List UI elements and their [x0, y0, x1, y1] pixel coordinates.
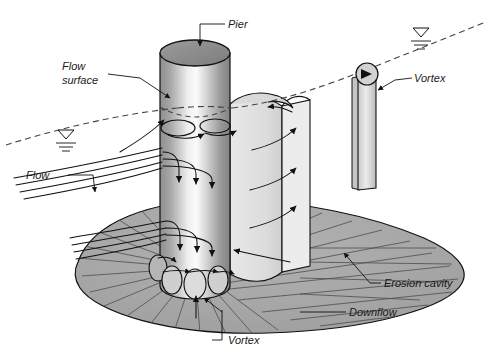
approach-streamlines-upper [14, 120, 164, 199]
water-level-symbol-right [411, 28, 431, 49]
pier-top-face [160, 40, 230, 66]
water-level-symbol-left [56, 130, 76, 151]
label-vortex-wake: Vortex [414, 72, 446, 84]
label-pier: Pier [228, 18, 249, 30]
label-downflow: Downflow [349, 306, 398, 318]
label-flow-surface-line2: surface [62, 74, 98, 86]
wake-flow-sheet [228, 91, 310, 282]
label-flow-surface-line1: Flow [62, 60, 86, 72]
label-flow: Flow [26, 169, 50, 181]
scour-diagram-canvas: Pier Flow surface Flow Vortex Erosion ca… [0, 0, 491, 357]
pier-scour-figure: Pier Flow surface Flow Vortex Erosion ca… [0, 0, 491, 357]
label-vortex-base: Vortex [228, 334, 260, 346]
wake-vortex-tube [352, 63, 378, 190]
label-erosion-cavity: Erosion cavity [384, 277, 454, 289]
